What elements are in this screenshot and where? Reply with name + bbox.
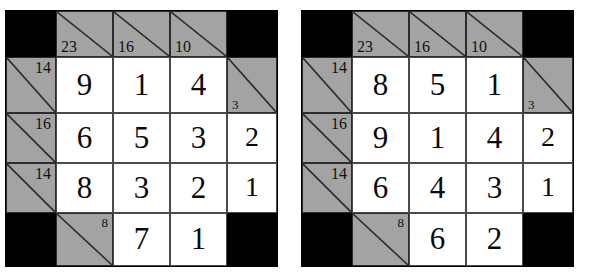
kakuro-entry-cell[interactable]: 6 (409, 213, 466, 266)
kakuro-down-clue: 3 (528, 98, 535, 111)
kakuro-entry-cell[interactable]: 4 (170, 57, 227, 113)
kakuro-clue-cell: 16 (302, 113, 352, 163)
kakuro-clue-cell: 10 (466, 11, 523, 57)
kakuro-clue-cell: 16 (113, 11, 170, 57)
kakuro-block-cell (227, 213, 277, 266)
kakuro-entry-cell[interactable]: 8 (56, 163, 113, 213)
kakuro-grid-left[interactable]: 231610149143166532148321871 (5, 10, 278, 267)
kakuro-entry-value: 5 (134, 122, 150, 153)
kakuro-entry-value: 2 (191, 172, 207, 203)
kakuro-entry-cell[interactable]: 2 (523, 113, 573, 163)
kakuro-clue-cell: 14 (302, 163, 352, 213)
kakuro-entry-value: 9 (77, 69, 93, 100)
kakuro-entry-cell[interactable]: 2 (466, 213, 523, 266)
kakuro-clue-cell: 23 (352, 11, 409, 57)
kakuro-entry-value: 2 (245, 123, 259, 151)
kakuro-entry-cell[interactable]: 4 (409, 163, 466, 213)
kakuro-entry-value: 6 (430, 223, 446, 254)
kakuro-entry-cell[interactable]: 1 (170, 213, 227, 266)
kakuro-block-cell (302, 11, 352, 57)
kakuro-entry-cell[interactable]: 1 (227, 163, 277, 213)
kakuro-entry-value: 1 (245, 173, 259, 201)
kakuro-block-cell (523, 213, 573, 266)
kakuro-clue-cell: 3 (523, 57, 573, 113)
kakuro-entry-cell[interactable]: 1 (466, 57, 523, 113)
kakuro-block-cell (6, 11, 56, 57)
kakuro-entry-value: 3 (487, 172, 503, 203)
kakuro-entry-value: 4 (487, 122, 503, 153)
kakuro-entry-value: 8 (77, 172, 93, 203)
kakuro-entry-cell[interactable]: 5 (409, 57, 466, 113)
kakuro-block-cell (6, 213, 56, 266)
kakuro-grid-right[interactable]: 231610148513169142146431862 (301, 10, 574, 267)
kakuro-entry-cell[interactable]: 4 (466, 113, 523, 163)
kakuro-clue-cell: 10 (170, 11, 227, 57)
kakuro-across-clue: 14 (331, 60, 347, 76)
kakuro-grid-left-wrapper: 231610149143166532148321871 (5, 10, 278, 267)
kakuro-entry-cell[interactable]: 5 (113, 113, 170, 163)
kakuro-entry-value: 1 (541, 173, 555, 201)
kakuro-across-clue: 8 (102, 216, 109, 229)
kakuro-entry-cell[interactable]: 3 (170, 113, 227, 163)
kakuro-clue-cell: 14 (6, 57, 56, 113)
kakuro-clue-cell: 8 (352, 213, 409, 266)
kakuro-entry-value: 2 (487, 223, 503, 254)
kakuro-entry-cell[interactable]: 2 (170, 163, 227, 213)
kakuro-clue-cell: 3 (227, 57, 277, 113)
kakuro-entry-cell[interactable]: 2 (227, 113, 277, 163)
kakuro-across-clue: 14 (35, 166, 51, 182)
kakuro-down-clue: 16 (118, 39, 134, 55)
kakuro-across-clue: 16 (331, 116, 347, 132)
kakuro-grid-right-wrapper: 231610148513169142146431862 (301, 10, 574, 267)
kakuro-entry-cell[interactable]: 8 (352, 57, 409, 113)
kakuro-entry-cell[interactable]: 7 (113, 213, 170, 266)
kakuro-entry-value: 2 (541, 123, 555, 151)
kakuro-block-cell (227, 11, 277, 57)
kakuro-entry-value: 4 (430, 172, 446, 203)
kakuro-entry-value: 7 (134, 223, 150, 254)
kakuro-clue-cell: 8 (56, 213, 113, 266)
kakuro-down-clue: 23 (61, 39, 77, 55)
kakuro-entry-value: 1 (134, 69, 150, 100)
kakuro-entry-value: 1 (487, 69, 503, 100)
kakuro-down-clue: 16 (414, 39, 430, 55)
kakuro-down-clue: 23 (357, 39, 373, 55)
kakuro-clue-cell: 14 (302, 57, 352, 113)
kakuro-down-clue: 3 (232, 98, 239, 111)
kakuro-entry-cell[interactable]: 1 (113, 57, 170, 113)
kakuro-clue-cell: 16 (6, 113, 56, 163)
kakuro-entry-value: 3 (134, 172, 150, 203)
kakuro-across-clue: 14 (35, 60, 51, 76)
kakuro-entry-value: 6 (77, 122, 93, 153)
kakuro-entry-cell[interactable]: 1 (523, 163, 573, 213)
kakuro-entry-cell[interactable]: 6 (56, 113, 113, 163)
kakuro-entry-value: 6 (373, 172, 389, 203)
kakuro-entry-value: 8 (373, 69, 389, 100)
kakuro-across-clue: 16 (35, 116, 51, 132)
kakuro-down-clue: 10 (471, 39, 487, 55)
kakuro-entry-cell[interactable]: 1 (409, 113, 466, 163)
kakuro-entry-value: 1 (430, 122, 446, 153)
kakuro-down-clue: 10 (175, 39, 191, 55)
kakuro-entry-value: 5 (430, 69, 446, 100)
kakuro-entry-cell[interactable]: 3 (113, 163, 170, 213)
kakuro-clue-cell: 14 (6, 163, 56, 213)
kakuro-puzzle-stage: 231610149143166532148321871 231610148513… (0, 0, 594, 277)
kakuro-clue-cell: 16 (409, 11, 466, 57)
kakuro-across-clue: 14 (331, 166, 347, 182)
kakuro-block-cell (302, 213, 352, 266)
kakuro-entry-cell[interactable]: 9 (56, 57, 113, 113)
kakuro-entry-value: 3 (191, 122, 207, 153)
kakuro-entry-value: 9 (373, 122, 389, 153)
kakuro-clue-cell: 23 (56, 11, 113, 57)
kakuro-across-clue: 8 (398, 216, 405, 229)
kakuro-entry-cell[interactable]: 9 (352, 113, 409, 163)
kakuro-entry-cell[interactable]: 3 (466, 163, 523, 213)
kakuro-entry-value: 4 (191, 69, 207, 100)
kakuro-entry-value: 1 (191, 223, 207, 254)
kakuro-block-cell (523, 11, 573, 57)
kakuro-entry-cell[interactable]: 6 (352, 163, 409, 213)
